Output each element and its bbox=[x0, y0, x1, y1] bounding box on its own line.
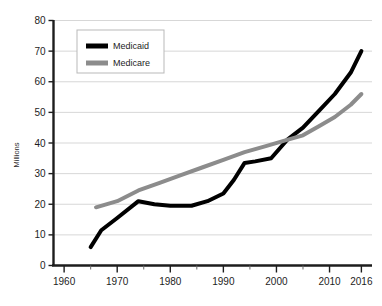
y-tick-label: 70 bbox=[34, 46, 46, 57]
legend-label-medicaid: Medicaid bbox=[113, 41, 149, 51]
y-tick-label: 0 bbox=[40, 260, 46, 271]
y-axis-title: Millions bbox=[12, 142, 21, 167]
y-tick-label: 60 bbox=[34, 76, 46, 87]
chart-legend: MedicaidMedicare bbox=[77, 30, 164, 73]
data-series-group bbox=[91, 51, 362, 247]
y-tick-label: 30 bbox=[34, 168, 46, 179]
series-line-medicaid bbox=[91, 51, 362, 247]
x-tick-label: 2000 bbox=[265, 276, 288, 287]
x-tick-label: 1980 bbox=[159, 276, 182, 287]
chart-canvas: 01020304050607080 1960197019801990200020… bbox=[0, 0, 382, 306]
x-tick-label: 1990 bbox=[212, 276, 235, 287]
x-tick-labels-group: 1960197019801990200020102016 bbox=[53, 276, 373, 287]
legend-label-medicare: Medicare bbox=[113, 58, 150, 68]
y-tick-label: 20 bbox=[34, 199, 46, 210]
x-tick-label: 1960 bbox=[53, 276, 76, 287]
y-tick-label: 80 bbox=[34, 15, 46, 26]
x-tick-label: 1970 bbox=[106, 276, 129, 287]
y-tick-labels-group: 01020304050607080 bbox=[34, 15, 46, 271]
y-tick-label: 50 bbox=[34, 107, 46, 118]
x-tick-label: 2016 bbox=[350, 276, 373, 287]
line-chart: 01020304050607080 1960197019801990200020… bbox=[0, 0, 382, 306]
series-line-medicare bbox=[96, 94, 361, 207]
x-tick-label: 2010 bbox=[318, 276, 341, 287]
y-tick-label: 10 bbox=[34, 229, 46, 240]
y-tick-label: 40 bbox=[34, 138, 46, 149]
